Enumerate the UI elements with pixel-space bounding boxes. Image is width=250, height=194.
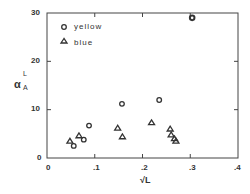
y-tick-30: 30 [31, 8, 40, 17]
blue-point [119, 134, 125, 139]
y-tick-10: 10 [31, 104, 40, 113]
legend-label-blue: blue [74, 38, 93, 47]
x-tick-1: .1 [93, 163, 100, 172]
yellow-point [71, 144, 76, 149]
blue-point [76, 133, 82, 138]
blue-point [115, 125, 121, 130]
x-tick-2: .2 [141, 163, 148, 172]
x-tick-0: 0 [46, 163, 50, 172]
y-tick-0: 0 [37, 153, 41, 162]
blue-point [149, 120, 155, 125]
yellow-point [190, 16, 195, 21]
yellow-point [157, 98, 162, 103]
legend [61, 25, 67, 43]
yellow-point [120, 102, 125, 107]
yellow-point [87, 123, 92, 128]
legend-circle-icon [62, 25, 67, 30]
x-axis-label: √L [140, 175, 150, 185]
legend-label-yellow: yellow [74, 22, 102, 31]
blue-point [167, 126, 173, 131]
blue-point [67, 138, 73, 143]
x-tick-3: .3 [189, 163, 196, 172]
y-tick-20: 20 [31, 56, 40, 65]
plot-frame [47, 13, 238, 158]
y-axis-label: α L A [14, 70, 34, 94]
scatter-plot [0, 0, 250, 194]
blue-point [168, 132, 174, 137]
x-tick-4: .4 [234, 163, 241, 172]
legend-triangle-icon [61, 39, 67, 44]
